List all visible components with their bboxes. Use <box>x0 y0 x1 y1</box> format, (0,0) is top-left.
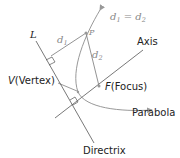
vertex-pointer <box>58 83 77 91</box>
axis-label: Axis <box>137 36 158 47</box>
parabola-label: Parabola <box>132 107 175 118</box>
point-p-label: P <box>88 28 95 37</box>
directrix-line <box>36 41 94 143</box>
parabola-diagram: L d1 P d2 d1 = d2 Axis V(Vertex) F(Focus… <box>0 0 180 158</box>
directrix-label-l: L <box>29 29 37 40</box>
directrix-label: Directrix <box>83 145 126 156</box>
equation-label: d1 = d2 <box>110 11 146 24</box>
parabola-curve <box>76 10 152 110</box>
d2-label: d2 <box>92 49 103 62</box>
focus-label: F(Focus) <box>105 81 147 92</box>
point-p <box>85 32 88 35</box>
vertex-label: V(Vertex) <box>8 75 55 86</box>
point-focus <box>98 85 101 88</box>
d1-label: d1 <box>57 34 68 47</box>
point-vertex <box>77 91 79 93</box>
